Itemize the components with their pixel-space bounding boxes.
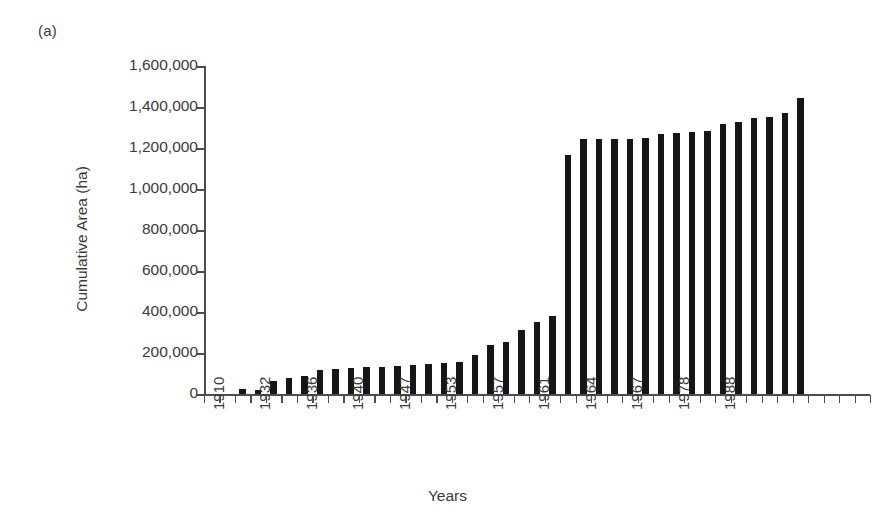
bar	[565, 155, 572, 394]
x-tick-mark	[653, 395, 654, 403]
bar	[518, 330, 525, 394]
bar	[332, 369, 339, 394]
x-tick-mark	[498, 395, 499, 403]
x-tick-mark	[219, 395, 220, 403]
y-tick-label: 1,200,000	[129, 138, 198, 156]
y-tick-label: 800,000	[142, 220, 198, 238]
x-tick-mark	[607, 395, 608, 403]
x-tick-mark	[467, 395, 468, 403]
figure-panel-a: (a) Cumulative Area (ha) 0200,000400,000…	[0, 0, 895, 528]
x-tick-mark	[762, 395, 763, 403]
x-tick-mark	[700, 395, 701, 403]
bar	[766, 117, 773, 394]
x-tick-label: 1957	[489, 377, 506, 410]
x-axis-title: Years	[0, 487, 895, 505]
bar	[611, 139, 618, 394]
x-tick-mark	[452, 395, 453, 403]
x-tick-mark	[328, 395, 329, 403]
x-tick-mark	[359, 395, 360, 403]
x-tick-mark	[204, 395, 205, 403]
x-tick-mark	[545, 395, 546, 403]
bar	[379, 367, 386, 394]
x-tick-mark	[281, 395, 282, 403]
bar	[580, 139, 587, 394]
bar	[751, 118, 758, 394]
x-tick-mark	[839, 395, 840, 403]
bar	[704, 131, 711, 394]
y-tick-label: 0	[189, 384, 198, 402]
y-tick-mark	[197, 271, 204, 273]
x-tick-mark	[235, 395, 236, 403]
bar	[720, 124, 727, 394]
y-tick-mark	[197, 107, 204, 109]
bar	[673, 133, 680, 394]
x-tick-mark	[638, 395, 639, 403]
x-tick-mark	[669, 395, 670, 403]
y-tick-mark	[197, 66, 204, 68]
x-tick-mark	[266, 395, 267, 403]
bar	[627, 139, 634, 394]
bar	[689, 132, 696, 394]
x-tick-mark	[405, 395, 406, 403]
x-tick-mark	[312, 395, 313, 403]
y-tick-mark	[197, 312, 204, 314]
y-axis-title: Cumulative Area (ha)	[73, 89, 91, 389]
x-tick-mark	[746, 395, 747, 403]
bar	[239, 389, 246, 394]
x-tick-mark	[483, 395, 484, 403]
x-tick-mark	[808, 395, 809, 403]
x-tick-mark	[374, 395, 375, 403]
y-tick-mark	[197, 148, 204, 150]
x-tick-mark	[870, 395, 871, 403]
x-tick-label: 1967	[628, 377, 645, 410]
x-tick-mark	[529, 395, 530, 403]
x-tick-mark	[684, 395, 685, 403]
y-tick-label: 600,000	[142, 261, 198, 279]
y-tick-label: 200,000	[142, 343, 198, 361]
x-tick-mark	[855, 395, 856, 403]
y-tick-label: 400,000	[142, 302, 198, 320]
x-tick-mark	[250, 395, 251, 403]
y-tick-mark	[197, 189, 204, 191]
x-tick-mark	[390, 395, 391, 403]
x-tick-mark	[731, 395, 732, 403]
x-tick-mark	[715, 395, 716, 403]
bar	[286, 378, 293, 394]
x-tick-mark	[436, 395, 437, 403]
x-tick-mark	[824, 395, 825, 403]
x-tick-label: 1947	[396, 377, 413, 410]
x-tick-mark	[514, 395, 515, 403]
y-tick-mark	[197, 353, 204, 355]
x-tick-label: 1936	[303, 377, 320, 410]
x-tick-mark	[622, 395, 623, 403]
x-tick-label: 1964	[582, 377, 599, 410]
x-tick-mark	[777, 395, 778, 403]
x-tick-label: 1953	[442, 377, 459, 410]
y-tick-label: 1,600,000	[129, 56, 198, 74]
x-tick-mark	[343, 395, 344, 403]
y-tick-mark	[197, 394, 204, 396]
x-tick-mark	[793, 395, 794, 403]
bar	[735, 122, 742, 394]
bar	[472, 355, 479, 394]
x-tick-label: 1932	[256, 377, 273, 410]
x-tick-label: 1940	[349, 377, 366, 410]
x-tick-mark	[576, 395, 577, 403]
bar	[782, 113, 789, 394]
x-tick-mark	[591, 395, 592, 403]
bar	[642, 138, 649, 394]
x-tick-label: 1988	[721, 377, 738, 410]
bar-series	[204, 66, 870, 394]
x-tick-label: 1910	[210, 377, 227, 410]
bar	[797, 98, 804, 394]
y-tick-label: 1,400,000	[129, 97, 198, 115]
x-tick-mark	[421, 395, 422, 403]
x-tick-label: 1961	[535, 377, 552, 410]
x-tick-label: 1978	[675, 377, 692, 410]
bar	[658, 134, 665, 394]
x-tick-mark	[560, 395, 561, 403]
panel-label: (a)	[38, 22, 57, 39]
bar	[425, 364, 432, 394]
plot-area: 0200,000400,000600,000800,0001,000,0001,…	[204, 66, 870, 394]
x-tick-mark	[297, 395, 298, 403]
